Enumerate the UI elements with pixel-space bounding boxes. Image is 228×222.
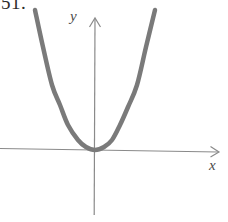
y-axis-line [94,19,95,215]
graph-canvas [0,0,228,222]
x-axis-label: x [209,158,216,173]
figure-container: 51. y x [0,0,228,222]
y-axis-label: y [70,9,77,24]
x-axis-line [0,149,218,153]
